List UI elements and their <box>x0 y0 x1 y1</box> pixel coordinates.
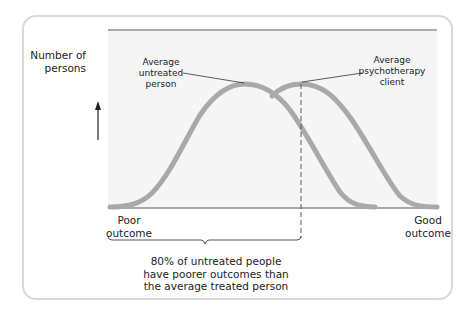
good-outcome-label: Good outcome <box>400 214 456 240</box>
note-line: have poorer outcomes than <box>128 268 304 281</box>
axis-end-label-line: Poor <box>104 214 154 227</box>
axis-end-label-line: outcome <box>400 227 456 240</box>
client-annotation: Average psychotherapy client <box>356 55 428 88</box>
annotation-line: psychotherapy <box>356 66 428 77</box>
y-axis-label-line: Number of <box>30 49 86 62</box>
note-line: 80% of untreated people <box>128 255 304 268</box>
y-axis-label: Number of persons <box>30 49 86 75</box>
poor-outcome-label: Poor outcome <box>104 214 154 240</box>
bracket-note: 80% of untreated people have poorer outc… <box>128 255 304 293</box>
axis-end-label-line: Good <box>400 214 456 227</box>
annotation-line: untreated <box>134 68 188 79</box>
arrow-up-icon <box>95 101 101 110</box>
annotation-line: Average <box>356 55 428 66</box>
annotation-line: person <box>134 79 188 90</box>
annotation-line: Average <box>134 57 188 68</box>
annotation-line: client <box>356 77 428 88</box>
untreated-annotation: Average untreated person <box>134 57 188 90</box>
note-line: the average treated person <box>128 280 304 293</box>
axis-end-label-line: outcome <box>104 227 154 240</box>
y-axis-label-line: persons <box>30 62 86 75</box>
